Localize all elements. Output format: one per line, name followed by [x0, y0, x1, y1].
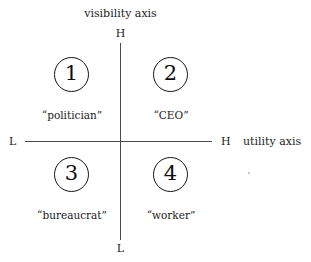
scan-speck-artifact [248, 172, 250, 174]
quadrant-2-badge: 2 [153, 57, 188, 92]
utility-axis-line [25, 141, 212, 142]
quadrant-2-label: “CEO” [121, 110, 221, 121]
visibility-axis-title: visibility axis [0, 8, 241, 19]
quadrant-1-number: 1 [65, 63, 78, 84]
quadrant-4-number: 4 [164, 163, 177, 184]
quadrant-4-label: “worker” [121, 210, 221, 221]
quadrant-diagram: visibility axis utility axis H L L H 1 “… [0, 0, 311, 262]
utility-axis-high-cap: H [221, 136, 231, 147]
quadrant-1-label: “politician” [22, 110, 122, 121]
quadrant-3-number: 3 [65, 163, 78, 184]
visibility-axis-low-cap: L [0, 243, 241, 254]
utility-axis-low-cap: L [9, 136, 16, 147]
quadrant-4-badge: 4 [153, 157, 188, 192]
quadrant-1-badge: 1 [54, 57, 89, 92]
visibility-axis-high-cap: H [0, 28, 241, 39]
utility-axis-title: utility axis [243, 136, 301, 147]
quadrant-3-label: “bureaucrat” [21, 210, 123, 221]
quadrant-3-badge: 3 [54, 157, 89, 192]
quadrant-2-number: 2 [164, 63, 177, 84]
